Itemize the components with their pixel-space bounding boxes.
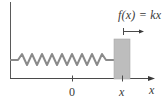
force-equation-label: f(x) = kx: [118, 9, 161, 21]
force-arrowhead-icon: [139, 30, 144, 34]
position-tick-label: x: [119, 86, 124, 98]
spring: [10, 54, 114, 65]
x-axis-label: x: [149, 84, 154, 96]
mass-block: [114, 39, 130, 79]
x-axis-arrowhead-icon: [148, 76, 155, 81]
origin-tick-label: 0: [69, 86, 75, 98]
